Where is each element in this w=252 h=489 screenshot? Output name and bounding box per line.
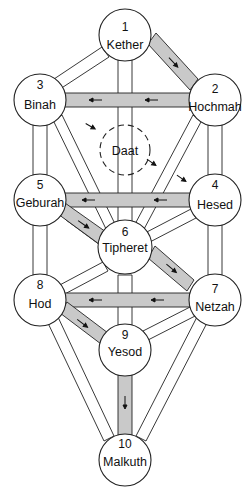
node-label: Malkuth (103, 455, 147, 469)
node-label: Netzah (195, 300, 235, 314)
path-hochmah-hesed (208, 125, 222, 175)
path-hesed-netzah (208, 225, 222, 275)
node-hod: 8 Hod (14, 274, 66, 326)
path-geburah-hod (33, 225, 47, 275)
path-hod-netzah (64, 293, 190, 307)
node-yesod: 9 Yesod (99, 324, 151, 376)
node-kether: 1 Kether (99, 9, 151, 61)
node-number: 1 (122, 20, 129, 34)
node-number: 4 (212, 178, 219, 192)
node-binah: 3 Binah (14, 74, 66, 126)
node-number: 10 (118, 437, 132, 451)
path-binah-geburah (33, 125, 47, 175)
path-binah-hochmah (64, 93, 190, 107)
node-number: 9 (122, 328, 129, 342)
node-number: 6 (122, 225, 129, 239)
node-label: Geburah (16, 196, 65, 210)
node-netzah: 7 Netzah (189, 274, 241, 326)
node-label: Binah (24, 98, 56, 112)
node-label: Hod (29, 297, 52, 311)
node-label: Yesod (108, 345, 142, 359)
node-label: Hesed (197, 198, 233, 212)
node-label: Tipheret (102, 241, 148, 255)
node-geburah: 5 Geburah (14, 174, 66, 226)
node-number: 8 (37, 278, 44, 292)
node-number: 3 (37, 78, 44, 92)
arrow-daat-hesed-icon (146, 157, 157, 167)
arrow-daat-hesed-icon (176, 173, 187, 183)
node-number: 5 (37, 178, 44, 192)
tree-of-life-diagram: Daat 1 Kether 2 Hochmah 3 Binah 4 Hesed … (0, 0, 252, 489)
node-tipheret: 6 Tipheret (98, 220, 152, 274)
node-malkuth: 10 Malkuth (99, 434, 151, 486)
arrow-binah-daat-icon (85, 122, 97, 131)
node-hesed: 4 Hesed (189, 174, 241, 226)
node-number: 2 (212, 82, 219, 96)
node-number: 7 (212, 282, 219, 296)
node-label: Kether (107, 38, 144, 52)
node-label: Hochmah (188, 100, 242, 114)
node-hochmah: 2 Hochmah (188, 74, 242, 126)
node-label: Daat (112, 144, 139, 158)
